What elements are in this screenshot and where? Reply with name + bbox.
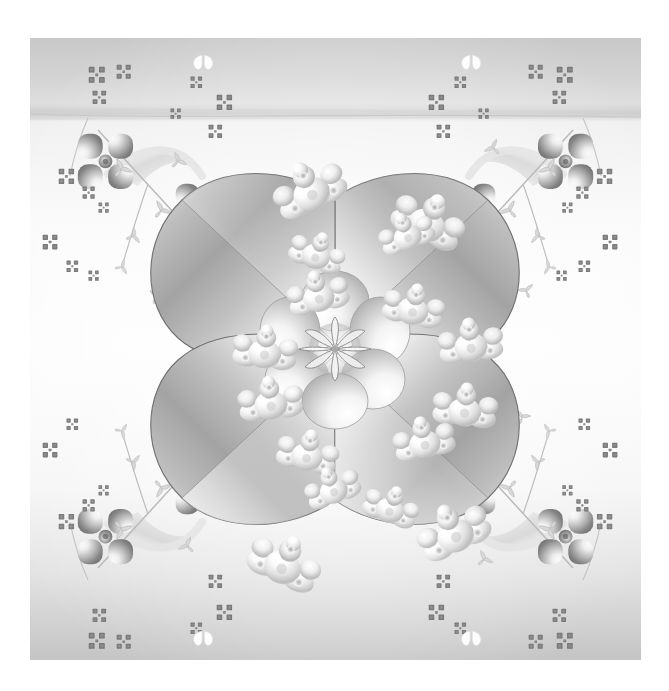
ornament-svg [30,38,641,660]
artboard [30,38,641,660]
artwork-page [0,0,669,691]
